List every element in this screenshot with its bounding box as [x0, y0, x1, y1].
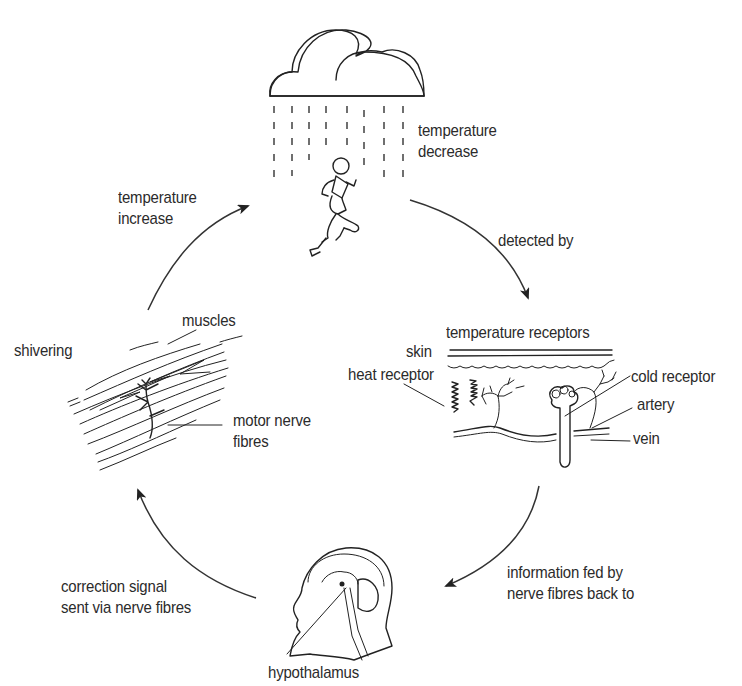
arrow-label-line2: sent via nerve fibres [61, 597, 191, 618]
motor-nerve-label: motor nerve fibres [233, 410, 311, 452]
cold-receptor-label: cold receptor [631, 366, 715, 387]
arrow-label-correction-signal: correction signal sent via nerve fibres [61, 576, 191, 618]
heat-receptor-label: heat receptor [348, 364, 434, 385]
arrow-label-line1: temperature [118, 187, 197, 208]
stimulus-label: temperature decrease [418, 120, 497, 162]
muscle-fibres-icon [68, 330, 242, 470]
arrow-label-line1: information fed by [507, 562, 634, 583]
stimulus-label-line1: temperature [418, 120, 497, 141]
receptors-title: temperature receptors [446, 322, 589, 343]
vein-label-text: vein [633, 428, 660, 449]
homeostasis-diagram: temperature decrease detected by tempera… [0, 0, 742, 686]
arrow-label-temperature-increase: temperature increase [118, 187, 197, 229]
shivering-label-text: shivering [14, 340, 72, 361]
motor-nerve-label-line1: motor nerve [233, 410, 311, 431]
vein-label: vein [633, 428, 660, 449]
arrow-label-detected-by: detected by [498, 230, 573, 251]
hypothalamus-label-text: hypothalamus [268, 662, 359, 683]
head-brain-icon [287, 548, 392, 660]
arrow-label-information-fed: information fed by nerve fibres back to [507, 562, 634, 604]
shivering-label: shivering [14, 340, 72, 361]
skin-cross-section-icon [404, 350, 632, 467]
receptors-title-text: temperature receptors [446, 322, 589, 343]
arrow-label-line2: nerve fibres back to [507, 583, 634, 604]
muscles-label: muscles [182, 310, 236, 331]
stimulus-label-line2: decrease [418, 141, 497, 162]
runner-icon [310, 158, 359, 256]
artery-label-text: artery [637, 394, 674, 415]
heat-receptor-label-text: heat receptor [348, 364, 434, 385]
motor-nerve-label-line2: fibres [233, 431, 311, 452]
arrow-label-line1: detected by [498, 230, 573, 251]
hypothalamus-label: hypothalamus [268, 662, 359, 683]
arrow-label-line1: correction signal [61, 576, 191, 597]
artery-label: artery [637, 394, 674, 415]
muscles-label-text: muscles [182, 310, 236, 331]
cold-receptor-label-text: cold receptor [631, 366, 715, 387]
arrow-label-line2: increase [118, 208, 197, 229]
skin-label: skin [406, 341, 432, 362]
skin-label-text: skin [406, 341, 432, 362]
